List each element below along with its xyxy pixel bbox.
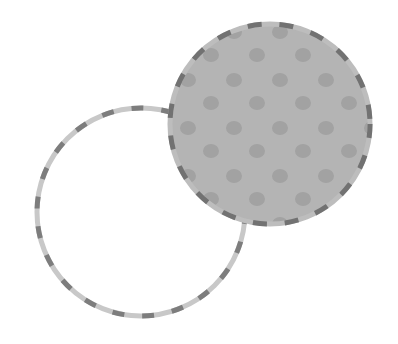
venn-diagram bbox=[0, 0, 398, 344]
filled-circle bbox=[170, 24, 370, 224]
